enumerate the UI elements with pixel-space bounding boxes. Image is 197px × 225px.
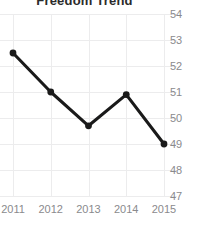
x-axis-tick-label: 2011 (0, 203, 33, 216)
line-chart: Freedom Trend 5453525150494847 201120122… (0, 0, 197, 225)
data-point-marker (10, 50, 17, 57)
data-point-marker (47, 89, 54, 96)
y-axis-tick-label: 54 (170, 8, 194, 21)
y-axis-tick-label: 51 (170, 86, 194, 99)
x-axis-tick-label: 2013 (69, 203, 109, 216)
data-point-marker (123, 91, 130, 98)
y-axis-tick-label: 50 (170, 112, 194, 125)
data-point-marker (161, 141, 168, 148)
data-point-marker (85, 122, 92, 129)
y-axis-tick-label: 52 (170, 60, 194, 73)
x-axis-tick-label: 2014 (106, 203, 146, 216)
y-axis-tick-label: 53 (170, 34, 194, 47)
plot-area (13, 14, 164, 196)
y-axis-tick-label: 47 (170, 190, 194, 203)
x-axis-tick-label: 2012 (31, 203, 71, 216)
y-axis-tick-label: 48 (170, 164, 194, 177)
series-markers (10, 50, 168, 148)
series-line-freedom-score (13, 53, 164, 144)
y-axis-tick-label: 49 (170, 138, 194, 151)
data-series-layer (0, 0, 197, 225)
x-axis-tick-label: 2015 (144, 203, 184, 216)
